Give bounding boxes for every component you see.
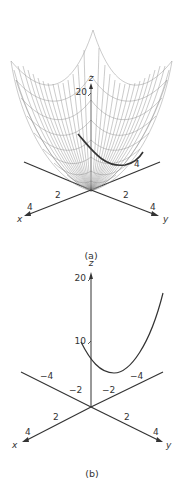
figure-canvas: z 20 x y 2 4 2 4 4 (a) z 20 10 [0, 0, 182, 493]
x-axis-label: x [16, 214, 23, 224]
panel-a: z 20 x y 2 4 2 4 4 (a) [11, 30, 172, 261]
y-tick-4: 4 [153, 427, 159, 437]
x-neg-tick-4: −4 [40, 371, 54, 381]
z-axis-arrow-icon [89, 83, 93, 89]
y-neg-tick-2: −2 [102, 385, 115, 395]
z-axis-label: z [88, 73, 94, 83]
y-axis-label: y [165, 440, 172, 450]
x-tick-2: 2 [53, 412, 59, 422]
x-neg-axis [91, 162, 160, 190]
parabola-curve [81, 293, 163, 373]
caption-b: (b) [85, 468, 98, 479]
x-tick-2: 2 [55, 190, 61, 200]
x-neg-tick-2: −2 [69, 385, 82, 395]
z-tick-10: 10 [75, 336, 87, 346]
y-tick-2: 2 [123, 190, 129, 200]
x-axis-label: x [11, 440, 18, 450]
z-tick-20: 20 [76, 87, 88, 97]
y-neg-tick-4: −4 [130, 371, 144, 381]
y-axis-label: y [162, 214, 169, 224]
y-tick-4: 4 [150, 202, 156, 212]
y-tick-2: 2 [124, 412, 130, 422]
y-neg-tick-4: 4 [134, 159, 140, 169]
z-tick-20: 20 [75, 273, 87, 283]
x-tick-4: 4 [25, 427, 31, 437]
x-tick-4: 4 [27, 202, 33, 212]
y-axis-arrow-icon [156, 437, 163, 442]
z-axis-arrow-icon [89, 272, 93, 279]
panel-b: z 20 10 x y −4 −2 −2 −4 2 4 2 4 (b) [11, 258, 172, 479]
x-axis-arrow-icon [22, 437, 29, 442]
z-axis-label: z [88, 258, 94, 268]
